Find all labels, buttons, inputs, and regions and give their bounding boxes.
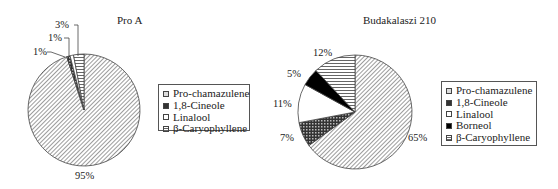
label-linalool-1: 1% — [48, 32, 62, 43]
label-pro-chamazulene-65: 65% — [408, 132, 427, 143]
label-cineole-1: 1% — [33, 46, 47, 57]
pie-pro-a — [28, 54, 140, 166]
swatch-crosshatch-icon — [446, 100, 452, 106]
chart-title-budakalaszi: Budakalaszi 210 — [363, 14, 436, 26]
label-beta-caryophyllene-3: 3% — [55, 19, 69, 30]
swatch-white-icon — [446, 111, 452, 117]
swatch-black-icon — [446, 123, 452, 129]
swatch-horizontal-lines-icon — [163, 126, 169, 132]
label-linalool-11: 11% — [273, 98, 292, 109]
legend-item-cineole: 1,8-Cineole — [163, 100, 245, 112]
legend-item-beta-caryophyllene: β-Caryophyllene — [163, 123, 245, 135]
chart-title-pro-a: Pro A — [117, 14, 142, 26]
legend-item-cineole: 1,8-Cineole — [446, 97, 532, 109]
legend-budakalaszi: Pro-chamazulene 1,8-Cineole Linalool Bor… — [441, 81, 537, 146]
label-cineole-7: 7% — [280, 132, 294, 143]
label-pro-chamazulene-95: 95% — [75, 170, 94, 181]
swatch-horizontal-lines-icon — [446, 135, 452, 141]
label-beta-caryophyllene-12: 12% — [313, 47, 332, 58]
swatch-white-icon — [163, 114, 169, 120]
label-borneol-5: 5% — [287, 68, 301, 79]
swatch-diagonal-hatch-icon — [446, 88, 452, 94]
legend-item-beta-caryophyllene: β-Caryophyllene — [446, 132, 532, 144]
legend-pro-a: Pro-chamazulene 1,8-Cineole Linalool β-C… — [158, 84, 250, 131]
swatch-crosshatch-icon — [163, 103, 169, 109]
pie-budakalaszi-210 — [298, 55, 412, 169]
swatch-diagonal-hatch-icon — [163, 91, 169, 97]
